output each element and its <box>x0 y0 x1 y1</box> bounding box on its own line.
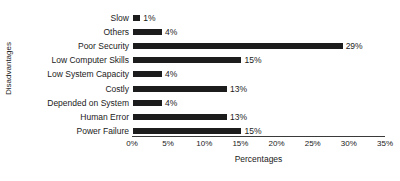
y-axis-title-text: Disadvantages <box>4 42 13 95</box>
bar-track: 13% <box>133 110 400 123</box>
x-axis-tick-label: 35% <box>377 138 393 149</box>
x-axis-title: Percentages <box>132 154 385 164</box>
category-label: Power Failure <box>16 126 133 136</box>
category-label: Costly <box>16 84 133 94</box>
x-axis-tick-label: 10% <box>196 138 212 149</box>
y-axis-title: Disadvantages <box>0 0 16 136</box>
bar-track: 15% <box>133 54 400 67</box>
bar-track: 29% <box>133 39 400 52</box>
bar <box>133 57 241 63</box>
category-label: Low Computer Skills <box>16 55 133 65</box>
x-axis-tick-label: 0% <box>126 138 138 149</box>
bar <box>133 86 227 92</box>
category-label: Poor Security <box>16 41 133 51</box>
bar-value-label: 29% <box>343 41 363 51</box>
bar-value-label: 15% <box>241 55 261 65</box>
bar-row: Low Computer Skills15% <box>16 54 400 67</box>
x-axis-tick-labels: 0%5%10%15%20%25%30%35% <box>0 138 400 150</box>
bar-track: 1% <box>133 11 400 24</box>
category-label: Slow <box>16 13 133 23</box>
category-label: Human Error <box>16 112 133 122</box>
bar-value-label: 15% <box>241 126 261 136</box>
x-axis-tick-label: 25% <box>305 138 321 149</box>
bar-row: Poor Security29% <box>16 39 400 52</box>
x-axis-tick-label: 15% <box>232 138 248 149</box>
bar <box>133 43 343 49</box>
bar-value-label: 13% <box>227 112 247 122</box>
category-label: Low System Capacity <box>16 69 133 79</box>
bar-track: 4% <box>133 25 400 38</box>
bar-value-label: 4% <box>162 98 177 108</box>
bar <box>133 71 162 77</box>
bar-value-label: 4% <box>162 27 177 37</box>
bar-track: 4% <box>133 96 400 109</box>
bar-value-label: 1% <box>140 13 155 23</box>
bar-value-label: 4% <box>162 69 177 79</box>
bar-row: Costly13% <box>16 82 400 95</box>
bar <box>133 114 227 120</box>
plot-area: Slow1%Others4%Poor Security29%Low Comput… <box>16 8 400 136</box>
bar-track: 13% <box>133 82 400 95</box>
bar-row: Low System Capacity4% <box>16 68 400 81</box>
bar-row: Slow1% <box>16 11 400 24</box>
category-label: Depended on System <box>16 98 133 108</box>
bar-row: Others4% <box>16 25 400 38</box>
bar-track: 4% <box>133 68 400 81</box>
bar-chart: Disadvantages Slow1%Others4%Poor Securit… <box>0 0 400 181</box>
bar-value-label: 13% <box>227 84 247 94</box>
category-label: Others <box>16 27 133 37</box>
x-axis-tick-label: 20% <box>269 138 285 149</box>
x-axis-line <box>132 136 385 137</box>
bar <box>133 29 162 35</box>
x-axis-tick-label: 30% <box>341 138 357 149</box>
bar-row: Human Error13% <box>16 110 400 123</box>
bar <box>133 15 140 21</box>
bar <box>133 100 162 106</box>
bar-row: Depended on System4% <box>16 96 400 109</box>
bar <box>133 128 241 134</box>
x-axis-tick-label: 5% <box>162 138 174 149</box>
